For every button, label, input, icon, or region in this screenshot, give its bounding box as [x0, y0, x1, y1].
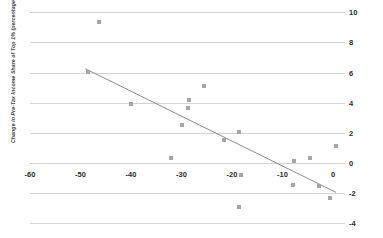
data-point [222, 138, 226, 142]
data-point [202, 84, 206, 88]
data-point [180, 123, 184, 127]
data-point [169, 156, 173, 160]
data-point [237, 130, 241, 134]
data-point [317, 184, 321, 188]
data-point [86, 70, 90, 74]
trendline [0, 0, 383, 238]
data-point [187, 98, 191, 102]
data-point [291, 183, 295, 187]
data-point [97, 20, 101, 24]
data-point [239, 173, 243, 177]
data-point [186, 106, 190, 110]
data-point [237, 205, 241, 209]
data-point [334, 144, 338, 148]
data-point [129, 102, 133, 106]
scatter-chart: Change in Pre-Tax Income Share of Top 1%… [0, 0, 383, 238]
data-point [308, 156, 312, 160]
data-point [292, 159, 296, 163]
data-point [328, 196, 332, 200]
